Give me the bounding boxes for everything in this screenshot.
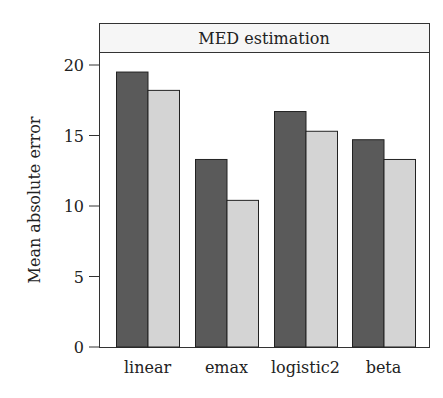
x-tick-label-linear: linear [124,358,172,377]
bar-emax-1 [196,159,228,347]
y-tick-label: 20 [64,56,84,75]
y-tick-label: 0 [74,338,84,357]
y-tick-label: 5 [74,268,84,287]
bar-beta-2 [384,159,416,347]
bar-logistic2-1 [275,112,307,347]
bar-linear-2 [148,90,180,347]
x-tick-label-beta: beta [366,358,402,377]
y-tick-label: 15 [64,127,84,146]
y-axis-label: Mean absolute error [25,116,44,283]
bar-logistic2-2 [306,131,338,347]
chart: MED estimation 05101520 linearemaxlogist… [0,0,443,398]
bar-emax-2 [227,200,259,347]
bar-linear-1 [117,72,149,347]
y-tick-label: 10 [64,197,84,216]
x-tick-label-emax: emax [205,358,248,377]
x-tick-label-logistic2: logistic2 [271,358,340,377]
bar-beta-1 [353,140,385,347]
x-axis: linearemaxlogistic2beta [124,358,402,377]
y-axis: 05101520 [64,56,99,357]
chart-title: MED estimation [198,29,329,48]
